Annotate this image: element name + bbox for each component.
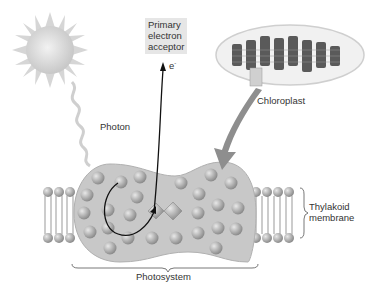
zoom-arrow bbox=[214, 88, 262, 170]
lipid-bilayer-left bbox=[43, 187, 75, 243]
photon-label: Photon bbox=[100, 122, 130, 133]
thylakoid-brace bbox=[300, 188, 308, 238]
sun-icon bbox=[12, 12, 88, 88]
photon-wave bbox=[72, 82, 90, 166]
lipid-bilayer-right bbox=[251, 187, 294, 243]
thylakoid-label: Thylakoid membrane bbox=[309, 202, 354, 224]
electron-label: e- bbox=[169, 60, 176, 72]
chloroplast-icon bbox=[216, 25, 364, 86]
photosystem-label: Photosystem bbox=[136, 272, 191, 283]
chloroplast-label: Chloroplast bbox=[257, 96, 305, 107]
primary-acceptor-label: Primary electron acceptor bbox=[148, 20, 184, 53]
photosystem-diagram bbox=[0, 0, 376, 298]
